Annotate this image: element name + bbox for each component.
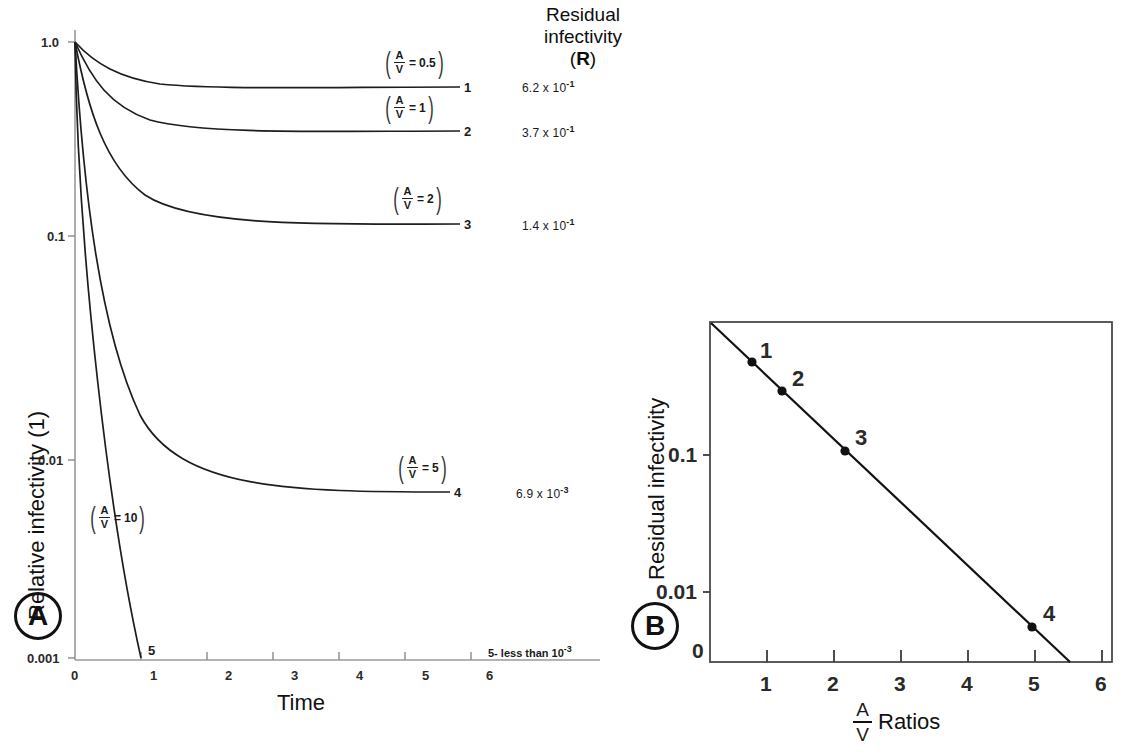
panel-a-curve-5 xyxy=(75,42,141,658)
panel-b-plot xyxy=(600,0,1121,700)
residual-mantissa: 6.2 x 10 xyxy=(522,81,566,95)
fraction-denominator: V xyxy=(396,109,403,120)
panel-b-point-label-3: 3 xyxy=(855,425,867,451)
fraction-denominator: V xyxy=(101,519,108,530)
equals-sign: = xyxy=(409,101,416,115)
panel-b-fit-line xyxy=(711,323,1070,662)
panel-b-point-1 xyxy=(747,357,756,366)
fraction-denominator: V xyxy=(404,200,411,211)
residual-mantissa: 1.4 x 10 xyxy=(522,219,566,233)
residual-exponent: -3 xyxy=(560,485,568,495)
fraction-numerator: A xyxy=(404,186,412,197)
av-value: 0.5 xyxy=(419,56,436,70)
av-value: 10 xyxy=(124,511,137,525)
panel-a-annotation-5: ( A V = 10 ) xyxy=(88,505,147,532)
fraction-denominator: V xyxy=(409,469,416,480)
residual-mantissa: 3.7 x 10 xyxy=(522,126,566,140)
av-fraction: A V xyxy=(99,505,110,530)
residual-value-3: 1.4 x 10-1 xyxy=(522,217,575,233)
panel-b: Residual infectivity 0.1 0.01 0 1 2 3 4 … xyxy=(600,0,1121,755)
panel-b-point-label-1: 1 xyxy=(760,338,772,364)
footnote-exponent: -3 xyxy=(564,644,572,654)
fraction-denominator: V xyxy=(856,725,869,744)
av-fraction: A V xyxy=(394,50,405,75)
ratios-label: Ratios xyxy=(878,709,940,735)
footnote-text: 5- less than 10 xyxy=(488,647,564,659)
figure-container: Relative infectivity (1) 1.0 0.1 0.01 0.… xyxy=(0,0,1121,755)
panel-a-annotation-2: ( A V = 1 ) xyxy=(383,95,436,122)
residual-mantissa: 6.9 x 10 xyxy=(516,487,560,501)
panel-b-point-3 xyxy=(840,446,849,455)
equals-sign: = xyxy=(417,192,424,206)
fraction-denominator: V xyxy=(396,64,403,75)
av-value: 2 xyxy=(427,192,434,206)
panel-b-badge: B xyxy=(631,602,679,650)
panel-a-curve-label-4: 4 xyxy=(454,485,461,500)
residual-value-1: 6.2 x 10-1 xyxy=(522,79,575,95)
fraction-numerator: A xyxy=(409,455,417,466)
fraction-bar xyxy=(853,721,872,723)
equals-sign: = xyxy=(409,56,416,70)
r-symbol: R xyxy=(576,48,590,69)
av-fraction: A V xyxy=(407,455,418,480)
panel-b-point-label-4: 4 xyxy=(1043,601,1055,627)
panel-a-curve-label-1: 1 xyxy=(464,80,471,95)
av-value: 1 xyxy=(419,101,426,115)
av-fraction: A V xyxy=(394,95,405,120)
av-fraction: A V xyxy=(402,186,413,211)
panel-a-curve-label-3: 3 xyxy=(464,217,471,232)
panel-a-annotation-1: ( A V = 0.5 ) xyxy=(383,50,446,77)
residual-value-2: 3.7 x 10-1 xyxy=(522,124,575,140)
residual-exponent: -1 xyxy=(566,217,574,227)
panel-a-curve-label-2: 2 xyxy=(464,124,471,139)
panel-b-point-4 xyxy=(1027,622,1036,631)
panel-a-curve-label-5: 5 xyxy=(148,643,155,658)
equals-sign: = xyxy=(114,511,121,525)
fraction-numerator: A xyxy=(396,50,404,61)
panel-a-badge: A xyxy=(14,592,62,640)
panel-a-annotation-3: ( A V = 2 ) xyxy=(391,186,444,213)
residual-exponent: -1 xyxy=(566,124,574,134)
fraction-numerator: A xyxy=(101,505,109,516)
panel-b-x-axis-title: A V Ratios xyxy=(853,700,940,744)
panel-a-footnote: 5- less than 10-3 xyxy=(488,644,572,659)
panel-a-annotation-4: ( A V = 5 ) xyxy=(396,455,449,482)
av-fraction: A V xyxy=(853,700,872,744)
panel-b-point-label-2: 2 xyxy=(792,366,804,392)
panel-b-point-2 xyxy=(777,386,786,395)
paren-close-icon: ) xyxy=(590,48,596,69)
equals-sign: = xyxy=(422,461,429,475)
av-value: 5 xyxy=(432,461,439,475)
fraction-numerator: A xyxy=(856,700,869,719)
residual-exponent: -1 xyxy=(566,79,574,89)
fraction-numerator: A xyxy=(396,95,404,106)
residual-value-4: 6.9 x 10-3 xyxy=(516,485,569,501)
